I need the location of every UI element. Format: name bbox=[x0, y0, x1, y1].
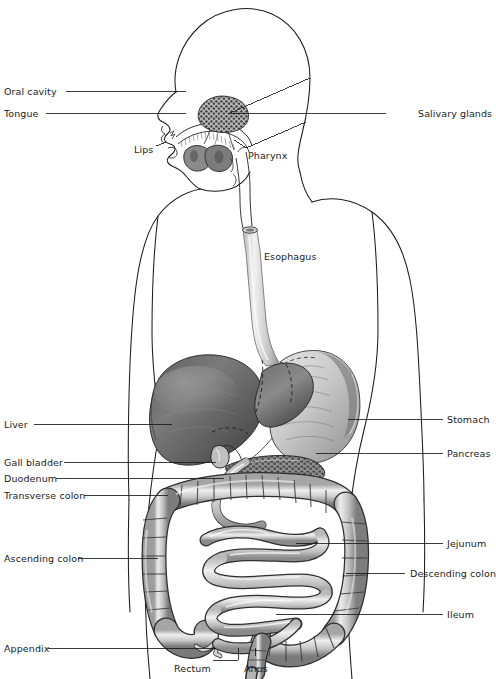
leader-pharynx bbox=[234, 140, 246, 148]
label-liver: Liver bbox=[4, 419, 28, 430]
label-pharynx: Pharynx bbox=[248, 150, 287, 161]
leader-salivary-diagonal bbox=[230, 78, 310, 113]
label-tongue: Tongue bbox=[4, 108, 39, 119]
label-salivary-glands: Salivary glands bbox=[418, 108, 492, 119]
label-descending-colon: Descending colon bbox=[410, 568, 496, 579]
leader-pharynx-diagonal bbox=[246, 122, 306, 148]
label-transverse-colon: Transverse colon bbox=[4, 490, 85, 501]
label-pancreas: Pancreas bbox=[447, 448, 490, 459]
label-stomach: Stomach bbox=[447, 414, 490, 425]
label-duodenum: Duodenum bbox=[4, 473, 57, 484]
label-gall-bladder: Gall bladder bbox=[4, 457, 63, 468]
label-esophagus: Esophagus bbox=[264, 251, 317, 262]
label-lips: Lips bbox=[134, 144, 153, 155]
leader-lips bbox=[156, 142, 166, 146]
label-ileum: Ileum bbox=[447, 609, 474, 620]
label-jejunum: Jejunum bbox=[447, 538, 486, 549]
label-appendix: Appendix bbox=[4, 643, 50, 654]
label-rectum: Rectum bbox=[174, 663, 211, 674]
esophagus-organ bbox=[243, 227, 281, 366]
label-anus: Anus bbox=[244, 663, 268, 674]
small-intestine-organ bbox=[206, 530, 326, 649]
label-oral-cavity: Oral cavity bbox=[4, 86, 57, 97]
label-ascending-colon: Ascending colon bbox=[4, 553, 83, 564]
salivary-glands-organ bbox=[198, 96, 248, 150]
